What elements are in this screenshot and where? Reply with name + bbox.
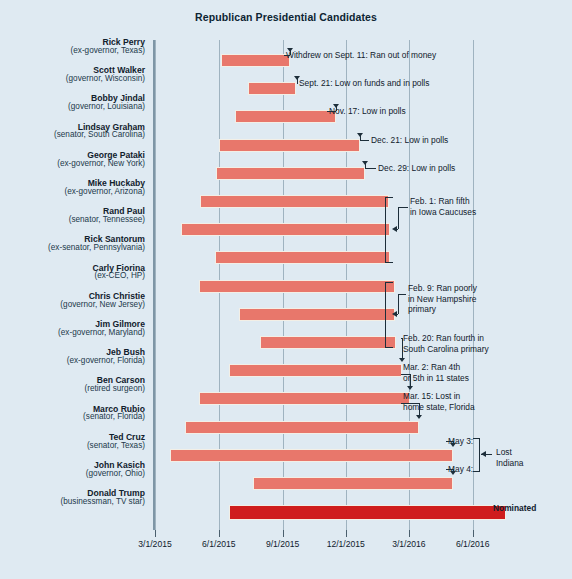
candidate-description: (governor, Louisiana)	[0, 103, 145, 111]
x-tick	[346, 530, 347, 537]
candidate-description: (retired surgeon)	[0, 385, 145, 393]
bar-bobby-jindal	[235, 110, 336, 123]
leader-line	[402, 338, 403, 358]
leader-line	[401, 374, 410, 375]
x-tick-label: 3/1/2016	[379, 539, 439, 549]
arrow-down-icon	[362, 161, 368, 165]
x-tick-label: 12/1/2015	[316, 539, 376, 549]
leader-line	[398, 294, 399, 314]
arrow-down-icon	[416, 415, 422, 419]
arrow-left-icon	[392, 311, 397, 317]
x-tick	[219, 530, 220, 537]
annotation-pataki: Dec. 29: Low in polls	[378, 163, 455, 174]
leader-line	[401, 403, 419, 404]
row-label-jeb-bush: Jeb Bush(ex-governor, Florida)	[0, 348, 145, 365]
x-tick-label: 9/1/2015	[253, 539, 313, 549]
leader-line	[360, 140, 369, 141]
bar-jim-gilmore	[260, 336, 397, 349]
row-label-carly-fiorina: Carly Fiorina(ex-CEO, HP)	[0, 264, 145, 281]
annotation-feb1: Feb. 1: Ran fifthin Iowa Caucuses	[410, 196, 476, 217]
arrow-down-icon	[407, 386, 413, 390]
candidate-description: (ex-governor, Maryland)	[0, 329, 145, 337]
chart-title: Republican Presidential Candidates	[0, 11, 572, 23]
arrow-down-icon	[450, 443, 456, 447]
bar-donald-trump	[229, 505, 506, 520]
candidate-description: (senator, South Carolina)	[0, 131, 145, 139]
bracket-indiana	[473, 438, 480, 472]
annotation-indiana: LostIndiana	[496, 447, 523, 468]
bar-rick-santorum	[215, 251, 390, 264]
x-tick	[409, 530, 410, 537]
candidate-description: (ex-governor, Arizona)	[0, 188, 145, 196]
row-label-ben-carson: Ben Carson(retired surgeon)	[0, 376, 145, 393]
leader-line	[410, 374, 411, 386]
annotation-perry: Withdrew on Sept. 11: Ran out of money	[286, 50, 436, 61]
candidate-description: (ex-governor, New York)	[0, 160, 145, 168]
bar-mike-huckaby	[200, 195, 389, 208]
candidate-description: (governor, Wisconsin)	[0, 75, 145, 83]
annotation-feb20: Feb. 20: Ran fourth inSouth Carolina pri…	[403, 333, 489, 354]
row-label-mike-huckaby: Mike Huckaby(ex-governor, Arizona)	[0, 179, 145, 196]
leader-line	[365, 168, 376, 169]
x-tick-label: 6/1/2015	[189, 539, 249, 549]
arrow-down-icon	[294, 76, 300, 80]
leader-line	[419, 403, 420, 415]
candidate-description: (governor, New Jersey)	[0, 301, 145, 309]
bar-ben-carson	[199, 392, 409, 405]
row-label-donald-trump: Donald Trump(businessman, TV star)	[0, 489, 145, 506]
annotation-graham: Dec. 21: Low in polls	[371, 135, 448, 146]
candidate-description: (ex-governor, Florida)	[0, 357, 145, 365]
gridline-3/1/2015	[155, 40, 156, 530]
leader-line	[398, 294, 406, 295]
leader-line	[398, 207, 399, 229]
x-tick	[283, 530, 284, 537]
row-label-lindsay-graham: Lindsay Graham(senator, South Carolina)	[0, 123, 145, 140]
candidate-description: (ex-senator, Pennsylvania)	[0, 244, 145, 252]
row-label-jim-gilmore: Jim Gilmore(ex-governor, Maryland)	[0, 320, 145, 337]
x-tick-label: 3/1/2015	[125, 539, 185, 549]
leader-line	[446, 469, 453, 470]
bar-carly-fiorina	[199, 280, 395, 293]
bar-rick-perry	[221, 54, 290, 67]
chart-root: Republican Presidential Candidates Rick …	[0, 0, 572, 579]
row-label-scott-walker: Scott Walker(governor, Wisconsin)	[0, 66, 145, 83]
row-label-ted-cruz: Ted Cruz(senator, Texas)	[0, 433, 145, 450]
arrow-down-icon	[333, 104, 339, 108]
bar-ted-cruz	[170, 449, 452, 462]
row-label-rand-paul: Rand Paul(senator, Tennessee)	[0, 207, 145, 224]
annotation-mar2: Mar. 2: Ran 4thor 5th in 11 states	[403, 362, 469, 383]
annotation-walker: Sept. 21: Low on funds and in polls	[299, 78, 429, 89]
candidate-description: (governor, Ohio)	[0, 470, 145, 478]
row-label-john-kasich: John Kasich(governor, Ohio)	[0, 461, 145, 478]
row-label-chris-christie: Chris Christie(governor, New Jersey)	[0, 292, 145, 309]
bar-john-kasich	[253, 477, 453, 490]
bar-rand-paul	[181, 223, 390, 236]
candidate-description: (senator, Tennessee)	[0, 216, 145, 224]
arrow-down-icon	[357, 133, 363, 137]
annotation-feb9: Feb. 9: Ran poorlyin New Hampshireprimar…	[408, 283, 477, 315]
row-label-george-pataki: George Pataki(ex-governor, New York)	[0, 151, 145, 168]
leader-line	[398, 207, 408, 208]
row-label-rick-santorum: Rick Santorum(ex-senator, Pennsylvania)	[0, 235, 145, 252]
row-label-marco-rubio: Marco Rubio(senator, Florida)	[0, 405, 145, 422]
bar-lindsay-graham	[219, 139, 360, 152]
candidate-description: (senator, Florida)	[0, 413, 145, 421]
bar-marco-rubio	[185, 421, 419, 434]
candidate-description: (businessman, TV star)	[0, 498, 145, 506]
leader-line	[327, 111, 336, 112]
x-axis: 3/1/20156/1/20159/1/201512/1/20153/1/201…	[0, 530, 572, 570]
candidate-description: (ex-CEO, HP)	[0, 272, 145, 280]
row-label-rick-perry: Rick Perry(ex-governor, Texas)	[0, 38, 145, 55]
leader-line	[284, 55, 290, 56]
row-label-bobby-jindal: Bobby Jindal(governor, Louisiana)	[0, 94, 145, 111]
candidate-description: (senator, Texas)	[0, 442, 145, 450]
arrow-left-icon	[392, 226, 397, 232]
arrow-down-icon	[287, 48, 293, 52]
x-tick	[155, 530, 156, 537]
arrow-left-icon	[481, 451, 486, 457]
bar-scott-walker	[248, 82, 297, 95]
bar-jeb-bush	[229, 364, 402, 377]
x-tick-label: 6/1/2016	[443, 539, 503, 549]
annotation-nominated: Nominated	[493, 503, 536, 514]
arrow-down-icon	[450, 471, 456, 475]
